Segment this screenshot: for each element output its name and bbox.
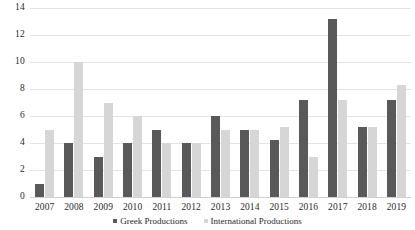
bar-group [352, 8, 381, 197]
bar [299, 100, 308, 197]
gridline [30, 197, 411, 198]
bar-groups [30, 8, 411, 197]
legend-label: Greek Productions [120, 217, 187, 226]
bar-group [206, 8, 235, 197]
bar [64, 143, 73, 197]
bar-group [30, 8, 59, 197]
x-tick-label: 2016 [294, 199, 323, 215]
bar [368, 127, 377, 197]
bar [338, 100, 347, 197]
legend-swatch-icon [113, 219, 117, 223]
plot-area [30, 8, 411, 197]
y-tick-label: 10 [15, 57, 25, 67]
legend-item[interactable]: International Productions [204, 217, 302, 226]
bar [104, 103, 113, 198]
x-tick-label: 2009 [89, 199, 118, 215]
bar-group [235, 8, 264, 197]
x-tick-label: 2017 [323, 199, 352, 215]
x-tick-label: 2012 [177, 199, 206, 215]
legend-swatch-icon [204, 219, 208, 223]
bar-group [147, 8, 176, 197]
bar-group [265, 8, 294, 197]
bar [133, 116, 142, 197]
bar [270, 140, 279, 197]
y-tick-label: 2 [20, 165, 25, 175]
bar [192, 143, 201, 197]
bar [45, 130, 54, 198]
bar-group [323, 8, 352, 197]
y-axis: 02468101214 [0, 0, 30, 197]
bar-chart: 02468101214 2007200820092010201120122013… [0, 0, 415, 230]
y-tick-label: 0 [20, 192, 25, 202]
x-tick-label: 2007 [30, 199, 59, 215]
bar [74, 62, 83, 197]
bar [309, 157, 318, 198]
bar [280, 127, 289, 197]
bar [328, 19, 337, 197]
bar-group [118, 8, 147, 197]
x-tick-label: 2014 [235, 199, 264, 215]
y-tick-label: 4 [20, 138, 25, 148]
x-tick-label: 2008 [59, 199, 88, 215]
bar [250, 130, 259, 198]
bar-group [59, 8, 88, 197]
legend-label: International Productions [211, 217, 302, 226]
x-tick-label: 2011 [147, 199, 176, 215]
y-tick-label: 12 [15, 30, 25, 40]
legend-item[interactable]: Greek Productions [113, 217, 187, 226]
bar [211, 116, 220, 197]
bar-group [382, 8, 411, 197]
chart-legend: Greek ProductionsInternational Productio… [0, 214, 415, 228]
bar-group [177, 8, 206, 197]
bar [152, 130, 161, 198]
bar [387, 100, 396, 197]
bar [397, 85, 406, 197]
y-tick-label: 14 [15, 3, 25, 13]
bar-group [294, 8, 323, 197]
x-tick-label: 2019 [382, 199, 411, 215]
bar [240, 130, 249, 198]
bar [35, 184, 44, 198]
x-tick-label: 2018 [352, 199, 381, 215]
x-tick-label: 2013 [206, 199, 235, 215]
bar-group [89, 8, 118, 197]
bar [94, 157, 103, 198]
bar [221, 130, 230, 198]
y-tick-label: 6 [20, 111, 25, 121]
x-tick-label: 2015 [265, 199, 294, 215]
bar [182, 143, 191, 197]
bar [162, 143, 171, 197]
bar [358, 127, 367, 197]
x-axis: 2007200820092010201120122013201420152016… [30, 199, 411, 215]
bar [123, 143, 132, 197]
y-tick-label: 8 [20, 84, 25, 94]
x-tick-label: 2010 [118, 199, 147, 215]
